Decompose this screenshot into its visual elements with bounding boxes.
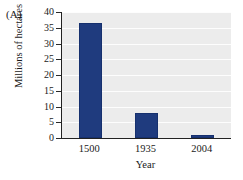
x-axis-tick-labels: 150019352004 [61, 142, 230, 156]
bar [135, 113, 158, 138]
y-axis-tick-labels: 0510152025303540 [34, 12, 54, 138]
bar [79, 23, 102, 138]
x-axis-tick-label: 1935 [124, 142, 168, 156]
y-axis-tick-label: 25 [34, 54, 54, 64]
bar-series [62, 12, 231, 138]
x-axis-tick-label: 2004 [180, 142, 224, 156]
y-axis-tick-label: 5 [34, 117, 54, 127]
plot-area [61, 12, 231, 139]
x-axis-title: Year [61, 158, 230, 172]
y-axis-tick-label: 10 [34, 102, 54, 112]
y-axis-tick-label: 0 [34, 133, 54, 143]
y-axis-tick-label: 40 [34, 7, 54, 17]
y-axis-title: Millions of hectares [12, 0, 26, 98]
y-axis-tick-label: 30 [34, 39, 54, 49]
y-axis-tick-label: 35 [34, 23, 54, 33]
chart-figure: (A) Millions of hectares 051015202530354… [0, 0, 243, 180]
y-axis-tick-label: 20 [34, 70, 54, 80]
y-axis-tick-label: 15 [34, 86, 54, 96]
bar [191, 135, 214, 138]
x-axis-tick-label: 1500 [67, 142, 111, 156]
